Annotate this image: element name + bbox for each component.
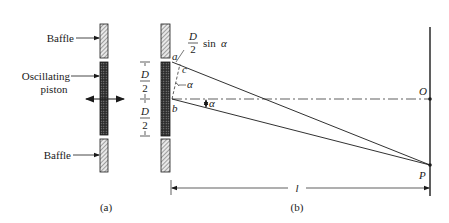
angle-arc-alpha-center (176, 83, 179, 86)
svg-text:D: D (140, 105, 149, 117)
path-diff-D: D (188, 30, 197, 42)
point-a-label: a (172, 50, 178, 62)
label-piston-line2: piston (41, 83, 68, 95)
label-piston-line1: Oscillating (22, 70, 71, 82)
piston-b (161, 62, 170, 136)
distance-label: l (295, 182, 298, 194)
point-o-label: O (419, 85, 427, 97)
path-diff-sin: sin (203, 37, 216, 49)
ray-from-a (172, 62, 430, 165)
caption-b: (b) (291, 201, 304, 214)
figure-b: D 2 D 2 D 2 sin α a c α b α O (140, 24, 432, 214)
point-b-label: b (172, 102, 178, 114)
baffle-top-b (161, 24, 170, 58)
caption-a: (a) (100, 201, 113, 214)
path-diff-two: 2 (190, 43, 196, 55)
baffle-top-a (100, 24, 108, 58)
label-baffle-top: Baffle (47, 32, 74, 44)
angle-alpha-label: α (209, 97, 215, 109)
svg-text:D: D (140, 68, 149, 80)
point-o (428, 97, 432, 101)
label-baffle-bottom: Baffle (44, 149, 71, 161)
dimension-d-half: D 2 D 2 (140, 62, 150, 136)
figure-a: Baffle Oscillating piston Baffle (a) (22, 24, 124, 214)
baffle-bottom-b (161, 139, 170, 172)
svg-text:2: 2 (142, 82, 148, 94)
path-diff-alpha: α (221, 37, 227, 49)
perpendicular-bc (172, 64, 180, 99)
svg-text:2: 2 (142, 119, 148, 131)
angle-alpha-center-label: α (187, 78, 193, 90)
baffle-bottom-a (100, 139, 108, 172)
point-p-label: P (418, 169, 426, 181)
point-p (428, 163, 432, 167)
point-c-label: c (182, 63, 187, 75)
piston-diffraction-diagram: Baffle Oscillating piston Baffle (a) D 2… (0, 0, 449, 223)
